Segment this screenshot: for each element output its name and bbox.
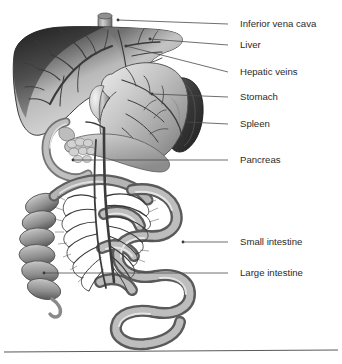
leader-dot-pancreas: [72, 159, 75, 162]
leader-dot-inferior-vena-cava: [117, 19, 120, 22]
anatomy-illustration-svg: Inferior vena cava Liver Hepatic veins S…: [0, 0, 342, 364]
label-hepatic-veins: Hepatic veins: [240, 66, 298, 77]
label-spleen: Spleen: [240, 118, 270, 129]
leader-dot-spleen: [186, 121, 189, 124]
leader-dot-small-intestine: [182, 241, 185, 244]
label-pancreas: Pancreas: [240, 154, 281, 165]
label-inferior-vena-cava: Inferior vena cava: [240, 18, 317, 29]
label-stomach: Stomach: [240, 91, 278, 102]
label-liver: Liver: [240, 39, 262, 50]
label-small-intestine: Small intestine: [240, 236, 302, 247]
leader-dot-large-intestine: [43, 272, 46, 275]
anatomy-figure: Inferior vena cava Liver Hepatic veins S…: [0, 0, 342, 364]
leader-dot-hepatic-veins: [124, 44, 127, 47]
leader-dot-stomach: [151, 93, 154, 96]
leader-dot-liver: [149, 38, 152, 41]
label-large-intestine: Large intestine: [240, 267, 303, 278]
